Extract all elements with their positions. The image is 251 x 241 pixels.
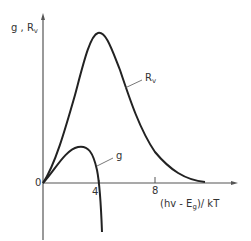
rv-curve — [43, 33, 205, 183]
g-leader-line — [97, 158, 113, 166]
x-tick-label-8: 8 — [152, 186, 158, 196]
rv-series-label: Rv — [145, 73, 156, 83]
g-series-label: g — [116, 151, 122, 161]
origin-label: 0 — [35, 178, 41, 188]
x-tick-label-4: 4 — [92, 187, 98, 197]
rv-leader-line — [125, 80, 142, 88]
y-axis-label: g , Rv — [11, 23, 38, 33]
x-axis-arrow-icon — [231, 181, 238, 185]
x-axis-label: (hv - Eg)/ kT — [160, 199, 219, 209]
y-axis-arrow-icon — [41, 13, 45, 20]
